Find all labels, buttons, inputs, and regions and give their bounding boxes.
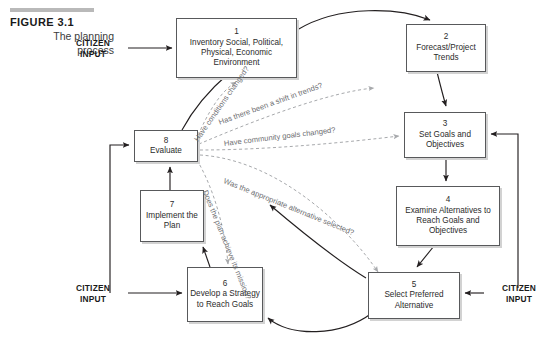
process-box-5: 5 Select Preferred Alternative [368,272,460,319]
process-box-7-number: 7 [143,200,201,210]
citizen-input-bottom-left-line2: INPUT [62,294,124,305]
arrow-left-feed-to-box8 [110,145,129,293]
process-box-4-number: 4 [399,195,497,205]
process-box-3: 3 Set Goals and Objectives [404,112,486,158]
process-box-8-number: 8 [150,136,182,146]
process-box-4: 4 Examine Alternatives to Reach Goals an… [396,186,500,246]
process-box-1-label: Inventory Social, Political, Physical, E… [179,38,294,69]
process-box-5-number: 5 [371,280,457,290]
citizen-input-bottom-left: CITIZEN INPUT [62,283,124,304]
process-box-2: 2 Forecast/Project Trends [406,24,486,72]
process-box-3-label: Set Goals and Objectives [407,130,483,151]
arrow-box2-to-box3 [437,72,446,106]
process-box-7-label: Implement the Plan [143,211,201,232]
process-box-8: 8 Evaluate [134,130,198,162]
process-box-1-number: 1 [179,27,294,37]
citizen-input-bottom-right: CITIZEN INPUT [488,283,550,304]
figure-number: FIGURE 3.1 [10,15,122,29]
arrow-box5-to-box6 [268,313,372,332]
arrow-box4-to-box5 [417,246,434,267]
citizen-input-bottom-left-line1: CITIZEN [62,283,124,294]
process-box-4-label: Examine Alternatives to Reach Goals and … [399,206,497,237]
process-box-2-label: Forecast/Project Trends [409,43,483,64]
citizen-input-top-line2: INPUT [62,49,124,60]
process-box-8-label: Evaluate [150,146,182,156]
process-box-1: 1 Inventory Social, Political, Physical,… [176,18,297,78]
process-box-5-label: Select Preferred Alternative [371,290,457,311]
citizen-input-bottom-right-line1: CITIZEN [488,283,550,294]
process-box-2-number: 2 [409,32,483,42]
citizen-input-top-line1: CITIZEN [62,38,124,49]
arrow-box6-to-box7 [203,247,210,267]
process-box-3-number: 3 [407,119,483,129]
process-box-7: 7 Implement the Plan [140,190,204,242]
citizen-input-bottom-right-line2: INPUT [488,294,550,305]
citizen-input-top: CITIZEN INPUT [62,38,124,59]
caption-rule [10,8,94,12]
